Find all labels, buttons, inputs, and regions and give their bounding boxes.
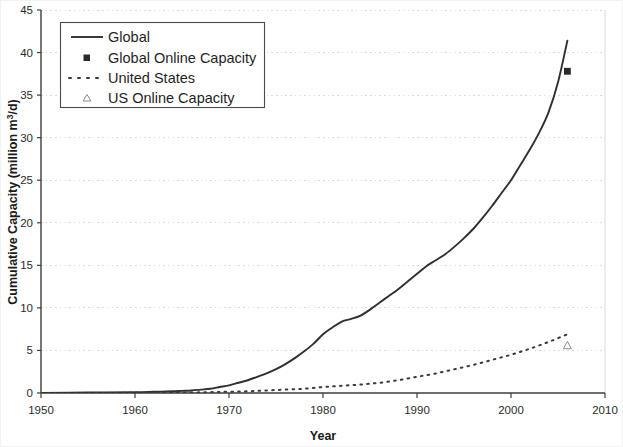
x-tick-label: 2010 bbox=[592, 404, 618, 416]
legend-label-global-online-capacity: Global Online Capacity bbox=[108, 50, 257, 66]
chart-figure: 051015202530354045 195019601970198019902… bbox=[0, 0, 623, 447]
y-tick-label: 20 bbox=[20, 217, 33, 229]
y-tick-label: 45 bbox=[20, 4, 33, 16]
x-tick-label: 1970 bbox=[216, 404, 242, 416]
legend: Global Global Online Capacity United Sta… bbox=[61, 23, 265, 108]
x-tick-label: 1990 bbox=[404, 404, 430, 416]
data-point-filled-square-icon bbox=[564, 68, 571, 75]
x-tick-label: 1980 bbox=[310, 404, 336, 416]
y-axis-title-pre: Cumulative Capacity (million m bbox=[6, 119, 20, 304]
y-tick-label: 40 bbox=[20, 47, 33, 59]
y-tick-label: 35 bbox=[20, 89, 33, 101]
legend-label-us-online-capacity: US Online Capacity bbox=[108, 90, 235, 106]
x-axis-title: Year bbox=[310, 429, 337, 443]
legend-label-global: Global bbox=[108, 29, 150, 45]
legend-item-global-online-capacity: Global Online Capacity bbox=[84, 50, 258, 66]
y-tick-label: 30 bbox=[20, 132, 33, 144]
filled-square-icon bbox=[84, 55, 91, 62]
y-tick-label: 10 bbox=[20, 302, 33, 314]
x-tick-label: 2000 bbox=[498, 404, 524, 416]
y-tick-label: 15 bbox=[20, 259, 33, 271]
y-axis-title: Cumulative Capacity (million m3/d) bbox=[5, 99, 20, 304]
y-tick-label: 25 bbox=[20, 174, 33, 186]
chart-svg: 051015202530354045 195019601970198019902… bbox=[0, 0, 623, 447]
x-tick-label: 1950 bbox=[28, 404, 54, 416]
svg-text:Cumulative Capacity (million m: Cumulative Capacity (million m3/d) bbox=[5, 99, 20, 304]
legend-label-united-states: United States bbox=[108, 70, 195, 86]
y-axis-title-post: /d) bbox=[6, 99, 20, 114]
y-tick-label: 5 bbox=[27, 344, 33, 356]
y-tick-label: 0 bbox=[27, 387, 33, 399]
x-tick-label: 1960 bbox=[122, 404, 148, 416]
